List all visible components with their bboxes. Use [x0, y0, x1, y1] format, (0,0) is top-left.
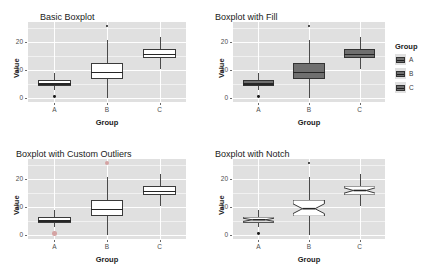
plot-area — [233, 22, 385, 102]
x-axis-label: Group — [28, 118, 186, 127]
x-axis-tick-mark — [160, 103, 161, 105]
y-axis-tick-label: 0 — [212, 232, 228, 239]
x-axis-tick-label: C — [348, 244, 372, 251]
x-axis-tick-mark — [54, 103, 55, 105]
x-axis-tick-label: A — [246, 107, 270, 114]
whisker — [160, 174, 161, 187]
whisker — [54, 210, 55, 218]
y-axis-tick-label: 20 — [7, 176, 23, 183]
outlier-point — [53, 95, 56, 98]
box — [293, 200, 324, 216]
whisker — [54, 223, 55, 228]
median-line — [243, 83, 274, 85]
x-axis-tick-label: C — [148, 107, 172, 114]
whisker — [360, 58, 361, 68]
x-axis-label: Group — [233, 255, 385, 264]
median-line — [91, 72, 124, 74]
y-axis-tick-mark — [25, 235, 27, 236]
whisker — [258, 223, 259, 228]
x-axis-tick-label: B — [297, 107, 321, 114]
panel-title: Basic Boxplot — [40, 12, 95, 22]
y-axis-tick-mark — [25, 98, 27, 99]
whisker — [54, 86, 55, 91]
plot-area — [233, 159, 385, 239]
legend-swatch-b-icon — [395, 68, 406, 79]
x-axis-tick-mark — [258, 240, 259, 242]
y-axis-tick-mark — [25, 70, 27, 71]
y-axis-tick-label: 20 — [212, 176, 228, 183]
legend-item-c[interactable]: C — [395, 82, 418, 93]
panel-boxplot-custom-outliers: Boxplot with Custom Outliers 01020ABCGro… — [0, 137, 205, 274]
x-axis-tick-mark — [309, 103, 310, 105]
whisker — [160, 58, 161, 68]
outlier-point — [257, 232, 260, 235]
whisker — [54, 73, 55, 81]
median-line — [143, 191, 176, 193]
y-axis-tick-label: 0 — [212, 95, 228, 102]
y-axis-tick-mark — [25, 42, 27, 43]
legend-title: Group — [395, 42, 418, 51]
legend-item-b[interactable]: B — [395, 68, 418, 79]
panel-boxplot-with-notch: Boxplot with Notch 01020ABCGroupValue — [205, 137, 422, 274]
x-axis-tick-label: C — [348, 107, 372, 114]
boxplot-figure-grid: Basic Boxplot 01020ABCGroupValue Boxplot… — [0, 0, 422, 274]
x-axis-label: Group — [28, 255, 186, 264]
y-axis-tick-label: 20 — [212, 39, 228, 46]
box — [344, 186, 375, 195]
legend-item-a[interactable]: A — [395, 54, 418, 65]
whisker — [360, 174, 361, 187]
whisker — [107, 79, 108, 98]
y-axis-label: Value — [217, 195, 226, 215]
group-legend: Group A B C — [395, 42, 418, 96]
x-axis-tick-mark — [360, 103, 361, 105]
median-line — [344, 54, 375, 56]
y-axis-tick-mark — [25, 207, 27, 208]
legend-label-b: B — [409, 70, 413, 77]
plot-area — [28, 22, 186, 102]
x-axis-tick-mark — [360, 240, 361, 242]
panel-title: Boxplot with Custom Outliers — [16, 149, 132, 159]
whisker — [360, 195, 361, 205]
x-axis-tick-mark — [309, 240, 310, 242]
whisker — [309, 177, 310, 200]
legend-swatch-c-icon — [395, 82, 406, 93]
panel-title: Boxplot with Notch — [215, 149, 290, 159]
y-axis-label: Value — [12, 195, 21, 215]
x-axis-tick-label: B — [95, 244, 119, 251]
x-axis-tick-label: A — [42, 244, 66, 251]
whisker — [309, 79, 310, 98]
whisker — [309, 40, 310, 63]
whisker — [160, 37, 161, 50]
whisker — [360, 37, 361, 50]
median-line — [143, 54, 176, 56]
panel-basic-boxplot: Basic Boxplot 01020ABCGroupValue — [0, 0, 205, 137]
legend-label-c: C — [409, 84, 414, 91]
y-axis-tick-mark — [230, 207, 232, 208]
x-axis-tick-label: B — [95, 107, 119, 114]
median-line — [38, 83, 71, 85]
x-axis-tick-label: A — [246, 244, 270, 251]
y-axis-tick-mark — [230, 42, 232, 43]
median-line — [38, 220, 71, 222]
x-axis-tick-mark — [54, 240, 55, 242]
outlier-point — [52, 231, 57, 236]
median-line — [293, 72, 324, 74]
y-axis-label: Value — [12, 58, 21, 78]
whisker — [107, 177, 108, 200]
panel-title: Boxplot with Fill — [215, 12, 278, 22]
y-axis-tick-mark — [230, 235, 232, 236]
panel-boxplot-with-fill: Boxplot with Fill Group A B C 01020ABCGr… — [205, 0, 422, 137]
legend-swatch-a-icon — [395, 54, 406, 65]
y-axis-tick-label: 0 — [7, 232, 23, 239]
y-axis-tick-mark — [230, 179, 232, 180]
legend-label-a: A — [409, 56, 413, 63]
x-axis-tick-mark — [107, 103, 108, 105]
y-axis-label: Value — [217, 58, 226, 78]
median-line — [91, 209, 124, 211]
x-axis-tick-mark — [107, 240, 108, 242]
x-axis-label: Group — [233, 118, 385, 127]
whisker — [160, 195, 161, 205]
x-axis-tick-mark — [258, 103, 259, 105]
y-axis-tick-label: 0 — [7, 95, 23, 102]
x-axis-tick-label: A — [42, 107, 66, 114]
